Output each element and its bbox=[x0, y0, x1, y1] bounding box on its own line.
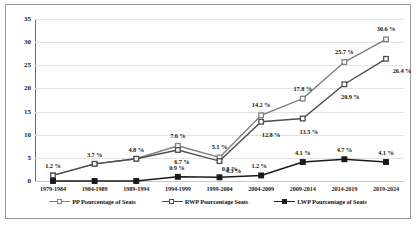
data-point-marker bbox=[259, 173, 264, 178]
x-axis-tick-label: 2019-2024 bbox=[373, 185, 399, 192]
legend-label: PP Pourcentage of Seats bbox=[72, 198, 135, 205]
data-point-label: 7.6 % bbox=[170, 131, 185, 138]
data-point-label: 12.8 % bbox=[262, 130, 281, 137]
legend-item-0[interactable]: PP Pourcentage of Seats bbox=[49, 198, 135, 205]
data-point-marker bbox=[51, 179, 56, 184]
data-point-label: 3.7 % bbox=[87, 150, 102, 157]
x-axis-tick-label: 1994-1999 bbox=[165, 185, 191, 192]
data-point-marker bbox=[259, 119, 264, 124]
x-axis-tick-label: 2014-2019 bbox=[331, 185, 357, 192]
legend-label: RWP Pourcentage Seats bbox=[185, 198, 249, 205]
data-point-label: 13.5 % bbox=[299, 127, 318, 134]
data-point-marker bbox=[176, 175, 181, 180]
data-point-marker bbox=[134, 156, 139, 161]
y-axis-tick-label: 20 bbox=[24, 84, 35, 92]
data-point-label: 4.1 % bbox=[378, 149, 393, 156]
legend-label: LWP Pourcentage of Seats bbox=[297, 198, 367, 205]
data-point-label: 0.8 % bbox=[222, 165, 237, 172]
data-point-marker bbox=[342, 60, 347, 65]
data-point-marker bbox=[342, 157, 347, 162]
chart-frame: 05101520253035 1979-19841984-19891989-19… bbox=[5, 4, 411, 219]
data-point-label: 0.9 % bbox=[169, 163, 184, 170]
legend-item-1[interactable]: RWP Pourcentage Seats bbox=[162, 198, 249, 205]
data-point-label: 20.9 % bbox=[341, 93, 360, 100]
data-point-marker bbox=[51, 173, 56, 178]
data-point-label: 30.6 % bbox=[377, 25, 396, 32]
data-point-label: 17.8 % bbox=[293, 84, 312, 91]
data-point-marker bbox=[384, 37, 389, 42]
y-axis-tick-label: 25 bbox=[24, 61, 35, 69]
data-point-marker bbox=[300, 96, 305, 101]
y-axis-tick-label: 5 bbox=[28, 154, 36, 162]
data-point-marker bbox=[92, 162, 97, 167]
data-point-marker bbox=[217, 175, 222, 180]
legend-marker-icon bbox=[274, 198, 295, 205]
data-point-label: 1.2 % bbox=[251, 162, 266, 169]
data-point-marker bbox=[176, 148, 181, 153]
data-point-marker bbox=[384, 57, 389, 62]
data-point-label: 1.2 % bbox=[45, 162, 60, 169]
data-point-label: 4.1 % bbox=[295, 149, 310, 156]
data-point-label: 14.2 % bbox=[252, 101, 271, 108]
y-axis-tick-label: 15 bbox=[24, 108, 35, 116]
x-axis-tick-label: 1999-2004 bbox=[207, 185, 233, 192]
data-point-marker bbox=[217, 159, 222, 164]
y-axis-tick-label: 35 bbox=[24, 15, 35, 23]
x-axis-tick-label: 1979-1984 bbox=[40, 185, 66, 192]
x-axis-tick-label: 1989-1994 bbox=[123, 185, 149, 192]
y-axis-tick-label: 10 bbox=[24, 131, 35, 139]
data-point-marker bbox=[259, 113, 264, 118]
chart-legend: PP Pourcentage of SeatsRWP Pourcentage S… bbox=[6, 198, 410, 205]
data-point-label: 25.7 % bbox=[335, 48, 354, 55]
x-axis-tick-label: 2009-2014 bbox=[290, 185, 316, 192]
plot-area: 05101520253035 1979-19841984-19891989-19… bbox=[35, 19, 404, 181]
legend-item-2[interactable]: LWP Pourcentage of Seats bbox=[274, 198, 367, 205]
data-point-label: 4.8 % bbox=[129, 145, 144, 152]
legend-marker-icon bbox=[162, 198, 183, 205]
data-point-marker bbox=[134, 179, 139, 184]
data-point-label: 5.1 % bbox=[212, 143, 227, 150]
y-axis-tick-label: 0 bbox=[28, 177, 36, 185]
data-point-marker bbox=[300, 160, 305, 165]
data-point-label: 4.7 % bbox=[337, 146, 352, 153]
data-point-marker bbox=[300, 116, 305, 121]
y-axis-tick-label: 30 bbox=[24, 38, 35, 46]
x-axis-tick-label: 1984-1989 bbox=[82, 185, 108, 192]
x-axis-tick-label: 2004-2009 bbox=[248, 185, 274, 192]
data-point-marker bbox=[92, 179, 97, 184]
legend-marker-icon bbox=[49, 198, 70, 205]
data-point-marker bbox=[384, 160, 389, 165]
data-point-label: 26.4 % bbox=[393, 66, 412, 73]
data-point-marker bbox=[342, 82, 347, 87]
